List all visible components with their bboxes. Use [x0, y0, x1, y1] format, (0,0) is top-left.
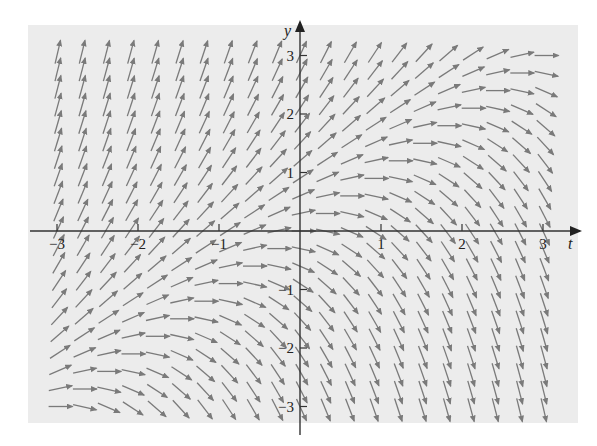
x-tick-label: −1 — [211, 236, 227, 252]
x-tick-label: 1 — [377, 236, 385, 252]
x-axis-label: t — [568, 235, 573, 252]
x-tick-label: 2 — [458, 236, 466, 252]
y-tick-label: −2 — [278, 340, 294, 356]
y-tick-label: −1 — [278, 282, 294, 298]
y-tick-label: 1 — [287, 165, 295, 181]
x-tick-label: −2 — [130, 236, 146, 252]
y-tick-label: −3 — [278, 399, 294, 415]
y-axis-label: y — [282, 22, 292, 40]
x-tick-label: 3 — [539, 236, 547, 252]
y-tick-label: 2 — [287, 106, 295, 122]
slope-field-chart: −3−2−1123−3−2−1123ty — [0, 0, 597, 446]
x-tick-label: −3 — [49, 236, 65, 252]
y-tick-label: 3 — [287, 48, 295, 64]
